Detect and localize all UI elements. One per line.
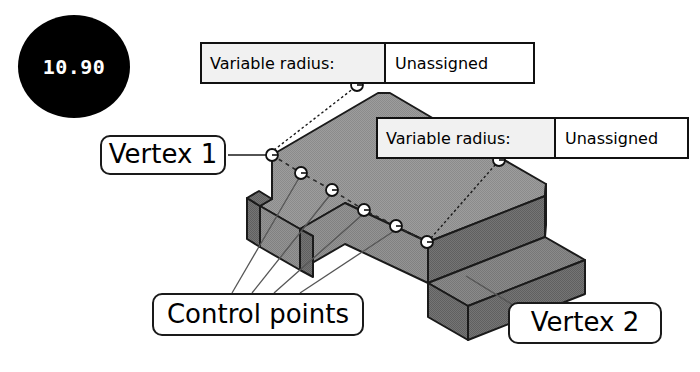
variable-radius-propbox-1[interactable]: Variable radius: Unassigned (200, 42, 535, 84)
label-vertex-2-text: Vertex 2 (531, 307, 639, 337)
value-badge: 10.90 (18, 15, 130, 118)
propbox-2-value[interactable]: Unassigned (556, 119, 667, 157)
propbox-1-key: Variable radius: (202, 44, 386, 82)
label-control-points-text: Control points (167, 299, 349, 329)
label-vertex-1-text: Vertex 1 (109, 139, 217, 169)
label-vertex-2: Vertex 2 (508, 302, 662, 344)
model-back-right-sliver (545, 184, 546, 237)
label-vertex-1: Vertex 1 (100, 135, 226, 175)
diagram-canvas: 10.90 Variable radius: Unassigned Variab… (0, 0, 700, 372)
model-notch-middle (300, 229, 313, 277)
variable-radius-propbox-2[interactable]: Variable radius: Unassigned (376, 117, 689, 159)
label-control-points: Control points (152, 293, 364, 336)
value-badge-text: 10.90 (43, 57, 106, 77)
propbox-2-key: Variable radius: (378, 119, 556, 157)
propbox-1-value[interactable]: Unassigned (386, 44, 497, 82)
